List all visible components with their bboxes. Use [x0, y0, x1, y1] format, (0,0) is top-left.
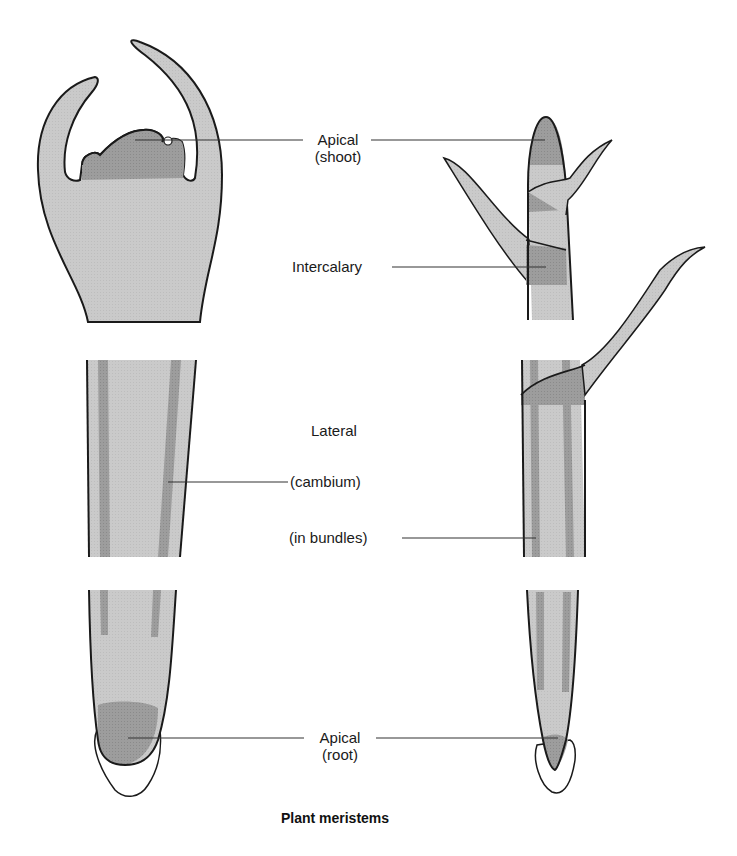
figure-caption: Plant meristems [281, 810, 389, 826]
right-leaf-large [582, 247, 705, 395]
label-cambium: (cambium) [290, 473, 361, 490]
label-apical-shoot: Apical (shoot) [315, 131, 362, 165]
right-leaf-left [444, 158, 530, 282]
plant-meristems-diagram [0, 0, 737, 856]
right-root-tip [527, 590, 578, 793]
label-apical-shoot-line2: (shoot) [315, 148, 362, 165]
left-root-tip [89, 590, 176, 796]
label-apical-root-line1: Apical [320, 729, 361, 746]
label-lateral: Lateral [311, 422, 357, 439]
label-intercalary: Intercalary [292, 258, 362, 275]
left-shoot-body [38, 40, 222, 322]
left-shoot-apex [38, 40, 222, 322]
label-apical-shoot-line1: Apical [315, 131, 362, 148]
label-in-bundles: (in bundles) [289, 529, 367, 546]
left-stem [87, 360, 196, 557]
label-apical-root: Apical (root) [320, 729, 361, 763]
label-apical-root-line2: (root) [320, 746, 361, 763]
right-shoot [444, 117, 612, 320]
